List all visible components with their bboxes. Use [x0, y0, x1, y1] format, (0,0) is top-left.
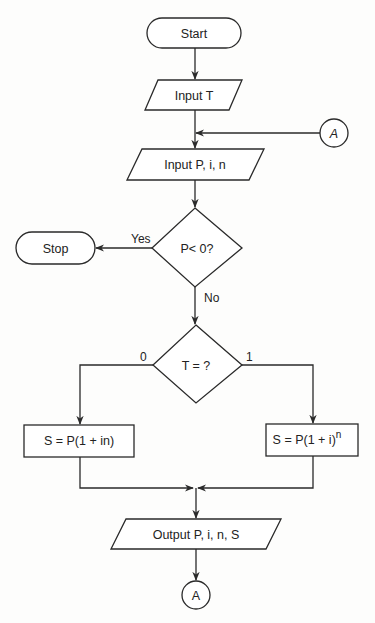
input-pin-node: Input P, i, n [127, 149, 264, 180]
stop-label: Stop [43, 242, 69, 256]
stop-terminal: Stop [16, 232, 95, 264]
edge-compound-to-merge [198, 456, 313, 488]
compound-interest-node: S = P(1 + i)n [266, 424, 358, 456]
decision-t-node: T = ? [153, 325, 242, 403]
edge-decision-t-zero [80, 365, 153, 424]
connector-a-out-label: A [192, 589, 201, 603]
decision-p-label: P< 0? [180, 242, 213, 256]
zero-label: 0 [140, 350, 147, 364]
input-t-node: Input T [145, 80, 242, 110]
edge-simple-to-merge [80, 457, 193, 488]
start-terminal: Start [147, 18, 241, 48]
no-label: No [204, 291, 220, 305]
connector-a-out: A [182, 581, 210, 609]
one-label: 1 [246, 350, 253, 364]
input-pin-label: Input P, i, n [164, 158, 226, 172]
output-label: Output P, i, n, S [153, 528, 240, 542]
simple-interest-label: S = P(1 + in) [44, 434, 114, 448]
simple-interest-node: S = P(1 + in) [24, 425, 134, 457]
decision-p-node: P< 0? [152, 208, 242, 287]
output-node: Output P, i, n, S [111, 519, 281, 549]
start-label: Start [181, 27, 208, 41]
yes-label: Yes [131, 232, 151, 246]
flowchart-canvas: Start Input T A Input P, i, n P< 0? Yes … [0, 0, 375, 623]
compound-exponent: n [336, 429, 342, 440]
input-t-label: Input T [175, 89, 214, 103]
edge-decision-t-one [242, 365, 313, 423]
decision-t-label: T = ? [182, 359, 211, 373]
connector-a-in: A [320, 119, 348, 147]
connector-a-in-label: A [329, 127, 338, 141]
